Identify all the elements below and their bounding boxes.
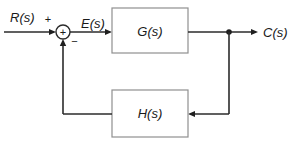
sum-input-sign-label: + [45,13,51,25]
block-diagram-figure: + + − G(s) H(s) R(s) E(s) C(s) [0,0,299,144]
error-arrowhead-icon [105,29,112,35]
output-signal-label: C(s) [263,25,288,40]
block-diagram-canvas: + + − G(s) H(s) R(s) E(s) C(s) [0,0,299,144]
input-arrowhead-icon [49,29,56,35]
feedback-arrowhead-icon [188,111,195,117]
forward-block-label: G(s) [137,24,162,39]
error-signal-label: E(s) [81,16,105,31]
feedback-block-label: H(s) [138,106,163,121]
sum-feedback-sign-label: − [71,35,77,47]
feedback-up-arrowhead-icon [60,39,66,46]
output-arrowhead-icon [251,29,258,35]
input-signal-label: R(s) [10,10,35,25]
summing-junction-plus-icon: + [60,26,66,38]
